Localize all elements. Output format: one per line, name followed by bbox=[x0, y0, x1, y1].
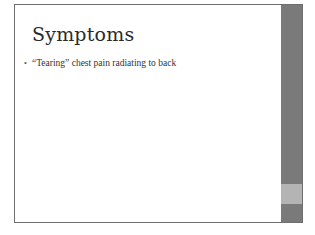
slide-title: Symptoms bbox=[32, 23, 134, 45]
accent-highlight bbox=[281, 184, 302, 204]
bullet-item: • “Tearing” chest pain radiating to back bbox=[24, 58, 176, 68]
slide: Symptoms • “Tearing” chest pain radiatin… bbox=[14, 4, 303, 223]
bullet-text: “Tearing” chest pain radiating to back bbox=[32, 58, 176, 68]
bullet-icon: • bbox=[24, 59, 32, 68]
bullet-list: • “Tearing” chest pain radiating to back bbox=[24, 58, 176, 68]
